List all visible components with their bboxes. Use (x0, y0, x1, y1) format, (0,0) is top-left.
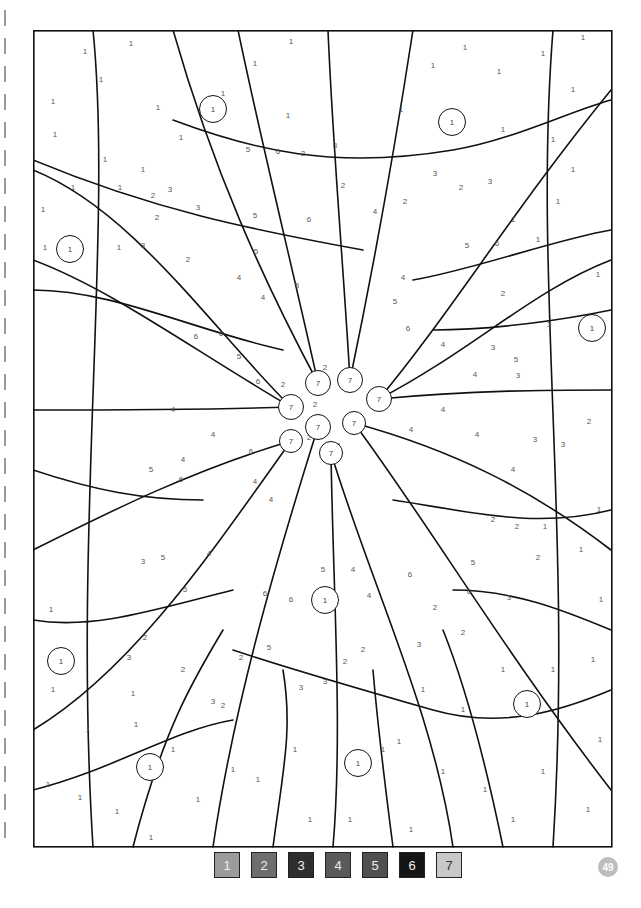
region-number[interactable]: 1 (591, 656, 595, 664)
region-number[interactable]: 1 (43, 244, 47, 252)
legend-swatch-6[interactable]: 6 (399, 852, 425, 878)
region-number[interactable]: 1 (156, 104, 160, 112)
region-number[interactable]: 3 (299, 684, 303, 692)
region-number[interactable]: 1 (99, 76, 103, 84)
region-number[interactable]: 5 (471, 559, 475, 567)
circle-region[interactable]: 1 (311, 586, 339, 614)
region-number[interactable]: 1 (501, 126, 505, 134)
region-number[interactable]: 1 (511, 816, 515, 824)
circle-region[interactable]: 1 (438, 108, 466, 136)
region-number[interactable]: 5 (321, 566, 325, 574)
legend-swatch-2[interactable]: 2 (251, 852, 277, 878)
region-number[interactable]: 1 (497, 68, 501, 76)
region-number[interactable]: 1 (41, 206, 45, 214)
region-number[interactable]: 5 (246, 146, 250, 154)
region-number[interactable]: 1 (179, 134, 183, 142)
region-number[interactable]: 4 (211, 431, 215, 439)
region-number[interactable]: 2 (433, 604, 437, 612)
region-number[interactable]: 1 (541, 50, 545, 58)
region-number[interactable]: 1 (49, 606, 53, 614)
region-number[interactable]: 1 (103, 156, 107, 164)
region-number[interactable]: 2 (301, 150, 305, 158)
region-number[interactable]: 4 (207, 550, 211, 558)
circle-region[interactable]: 1 (136, 753, 164, 781)
region-number[interactable]: 5 (514, 356, 518, 364)
center-circle-region[interactable]: 7 (305, 414, 331, 440)
region-number[interactable]: 6 (406, 325, 410, 333)
region-number[interactable]: 4 (473, 371, 477, 379)
region-number[interactable]: 5 (149, 466, 153, 474)
region-number[interactable]: 4 (373, 208, 377, 216)
region-number[interactable]: 4 (401, 274, 405, 282)
center-circle-region[interactable]: 7 (278, 394, 304, 420)
region-number[interactable]: 1 (536, 236, 540, 244)
region-number[interactable]: 1 (511, 216, 515, 224)
legend-swatch-5[interactable]: 5 (362, 852, 388, 878)
region-number[interactable]: 1 (141, 166, 145, 174)
region-number[interactable]: 1 (431, 62, 435, 70)
region-number[interactable]: 1 (129, 40, 133, 48)
region-number[interactable]: 2 (491, 516, 495, 524)
circle-region[interactable]: 1 (578, 314, 606, 342)
region-number[interactable]: 3 (533, 436, 537, 444)
region-number[interactable]: 3 (561, 441, 565, 449)
legend-swatch-1[interactable]: 1 (214, 852, 240, 878)
region-number[interactable]: 2 (313, 401, 317, 409)
region-number[interactable]: 6 (408, 571, 412, 579)
region-number[interactable]: 1 (397, 738, 401, 746)
region-number[interactable]: 1 (599, 596, 603, 604)
region-number[interactable]: 6 (249, 448, 253, 456)
region-number[interactable]: 1 (51, 686, 55, 694)
region-number[interactable]: 1 (409, 826, 413, 834)
region-number[interactable]: 1 (131, 690, 135, 698)
region-number[interactable]: 5 (183, 586, 187, 594)
region-number[interactable]: 1 (256, 776, 260, 784)
region-number[interactable]: 4 (253, 478, 257, 486)
legend-swatch-3[interactable]: 3 (288, 852, 314, 878)
circle-region[interactable]: 1 (47, 647, 75, 675)
region-number[interactable]: 1 (598, 736, 602, 744)
region-number[interactable]: 6 (179, 476, 183, 484)
region-number[interactable]: 4 (237, 274, 241, 282)
region-number[interactable]: 1 (71, 184, 75, 192)
region-number[interactable]: 3 (333, 142, 337, 150)
region-number[interactable]: 5 (465, 242, 469, 250)
region-number[interactable]: 2 (361, 646, 365, 654)
region-number[interactable]: 1 (196, 796, 200, 804)
region-number[interactable]: 3 (168, 186, 172, 194)
region-number[interactable]: 1 (46, 781, 50, 789)
region-number[interactable]: 4 (475, 431, 479, 439)
center-circle-region[interactable]: 7 (319, 441, 343, 465)
region-number[interactable]: 1 (149, 834, 153, 842)
region-number[interactable]: 3 (196, 204, 200, 212)
circle-region[interactable]: 1 (344, 749, 372, 777)
region-number[interactable]: 1 (115, 808, 119, 816)
region-number[interactable]: 6 (219, 330, 223, 338)
region-number[interactable]: 5 (267, 644, 271, 652)
legend-swatch-7[interactable]: 7 (436, 852, 462, 878)
region-number[interactable]: 5 (161, 554, 165, 562)
region-number[interactable]: 1 (221, 90, 225, 98)
region-number[interactable]: 1 (571, 166, 575, 174)
region-number[interactable]: 2 (155, 214, 159, 222)
region-number[interactable]: 6 (467, 588, 471, 596)
region-number[interactable]: 1 (543, 523, 547, 531)
region-number[interactable]: 1 (348, 816, 352, 824)
region-number[interactable]: 3 (433, 170, 437, 178)
region-number[interactable]: 2 (461, 629, 465, 637)
region-number[interactable]: 5 (295, 282, 299, 290)
region-number[interactable]: 5 (254, 248, 258, 256)
region-number[interactable]: 2 (186, 256, 190, 264)
region-number[interactable]: 3 (417, 641, 421, 649)
region-number[interactable]: 4 (367, 592, 371, 600)
region-number[interactable]: 3 (323, 678, 327, 686)
region-number[interactable]: 6 (289, 596, 293, 604)
region-number[interactable]: 1 (289, 38, 293, 46)
region-number[interactable]: 4 (351, 566, 355, 574)
region-number[interactable]: 4 (409, 426, 413, 434)
region-number[interactable]: 1 (579, 546, 583, 554)
region-number[interactable]: 1 (308, 816, 312, 824)
region-number[interactable]: 1 (134, 721, 138, 729)
region-number[interactable]: 1 (83, 48, 87, 56)
center-circle-region[interactable]: 7 (342, 411, 366, 435)
